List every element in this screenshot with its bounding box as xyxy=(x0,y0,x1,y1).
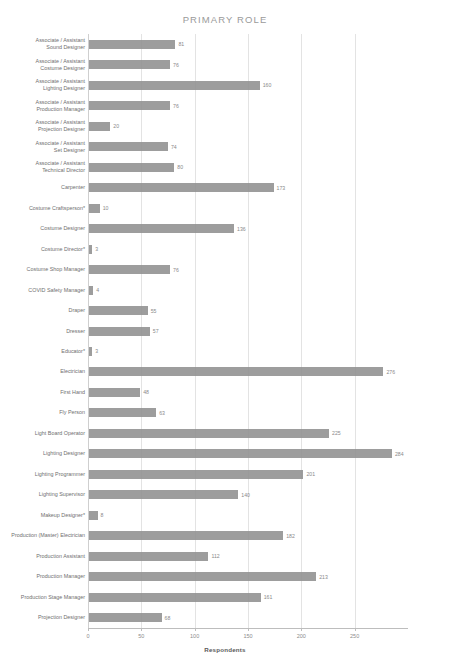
bar-value-label: 140 xyxy=(241,492,250,498)
category-label: Carpenter xyxy=(0,184,85,191)
x-tick-100 xyxy=(195,628,196,631)
bar-value-label: 74 xyxy=(171,144,177,150)
bar[interactable] xyxy=(89,101,170,110)
bar-value-label: 112 xyxy=(211,553,219,559)
bar[interactable] xyxy=(89,367,383,376)
x-axis-label: Respondents xyxy=(0,646,450,653)
category-label: Draper xyxy=(0,307,85,314)
bar-value-label: 213 xyxy=(319,574,328,580)
bar-value-label: 160 xyxy=(263,82,272,88)
bar[interactable] xyxy=(89,306,148,315)
bar[interactable] xyxy=(89,531,283,540)
category-label: Lighting Designer xyxy=(0,450,85,457)
x-tick-50 xyxy=(141,628,142,631)
bar-value-label: 182 xyxy=(286,533,295,539)
bar[interactable] xyxy=(89,81,260,90)
category-label: Projection Designer xyxy=(0,614,85,621)
bar-value-label: 284 xyxy=(395,451,404,457)
gridline-250 xyxy=(355,34,356,628)
bar-value-label: 76 xyxy=(173,267,179,273)
category-label: Associate / Assistant Projection Designe… xyxy=(0,119,85,133)
bar-value-label: 3 xyxy=(95,348,98,354)
bar[interactable] xyxy=(89,265,170,274)
category-label: Educator* xyxy=(0,348,85,355)
category-label: Costume Shop Manager xyxy=(0,266,85,273)
category-label: Production Assistant xyxy=(0,553,85,560)
bar-value-label: 3 xyxy=(95,246,98,252)
bar-value-label: 76 xyxy=(173,103,179,109)
category-label: Costume Craftsperson* xyxy=(0,205,85,212)
bar[interactable] xyxy=(89,286,93,295)
bar-value-label: 57 xyxy=(153,328,159,334)
bar[interactable] xyxy=(89,245,92,254)
bar[interactable] xyxy=(89,593,261,602)
bar[interactable] xyxy=(89,347,92,356)
category-label: Production Manager xyxy=(0,573,85,580)
category-label: Lighting Supervisor xyxy=(0,491,85,498)
category-label: Associate / Assistant Set Designer xyxy=(0,140,85,154)
bar[interactable] xyxy=(89,183,274,192)
bar-value-label: 201 xyxy=(306,471,315,477)
bar-chart-primary-role: PRIMARY ROLE Respondents 050100150200250… xyxy=(0,0,450,666)
category-label: Light Board Operator xyxy=(0,430,85,437)
bar-value-label: 161 xyxy=(264,594,273,600)
category-label: Makeup Designer* xyxy=(0,512,85,519)
bar[interactable] xyxy=(89,122,110,131)
x-tick-250 xyxy=(355,628,356,631)
bar[interactable] xyxy=(89,163,174,172)
bar[interactable] xyxy=(89,511,98,520)
category-label: Fly Person xyxy=(0,409,85,416)
bar[interactable] xyxy=(89,327,150,336)
bar[interactable] xyxy=(89,60,170,69)
x-tick-label-50: 50 xyxy=(138,633,144,639)
category-label: Associate / Assistant Lighting Designer xyxy=(0,78,85,92)
bar[interactable] xyxy=(89,552,208,561)
bar[interactable] xyxy=(89,40,175,49)
bar[interactable] xyxy=(89,388,140,397)
bar-value-label: 80 xyxy=(177,164,183,170)
category-label: Associate / Assistant Costume Designer xyxy=(0,58,85,72)
bar[interactable] xyxy=(89,490,238,499)
x-tick-label-100: 100 xyxy=(190,633,199,639)
bar[interactable] xyxy=(89,204,100,213)
gridline-200 xyxy=(301,34,302,628)
category-label: Costume Director* xyxy=(0,246,85,253)
bar-value-label: 276 xyxy=(386,369,395,375)
bar-value-label: 81 xyxy=(178,41,184,47)
category-label: Dresser xyxy=(0,328,85,335)
x-tick-150 xyxy=(248,628,249,631)
x-tick-label-150: 150 xyxy=(243,633,252,639)
bar-value-label: 63 xyxy=(159,410,165,416)
category-label: Production Stage Manager xyxy=(0,594,85,601)
bar-value-label: 8 xyxy=(101,512,104,518)
bar[interactable] xyxy=(89,408,156,417)
category-label: Production (Master) Electrician xyxy=(0,532,85,539)
bar[interactable] xyxy=(89,142,168,151)
bar-value-label: 225 xyxy=(332,430,341,436)
bar-value-label: 4 xyxy=(96,287,99,293)
bar-value-label: 173 xyxy=(277,185,286,191)
bar[interactable] xyxy=(89,470,303,479)
category-label: Associate / Assistant Technical Director xyxy=(0,160,85,174)
bar[interactable] xyxy=(89,429,329,438)
bar-value-label: 76 xyxy=(173,62,179,68)
bar-value-label: 55 xyxy=(151,308,157,314)
category-label: Lighting Programmer xyxy=(0,471,85,478)
x-tick-label-200: 200 xyxy=(297,633,306,639)
bar[interactable] xyxy=(89,224,234,233)
bar[interactable] xyxy=(89,449,392,458)
category-label: First Hand xyxy=(0,389,85,396)
category-label: COVID Safety Manager xyxy=(0,287,85,294)
category-label: Associate / Assistant Production Manager xyxy=(0,99,85,113)
bar-value-label: 68 xyxy=(165,615,171,621)
category-label: Associate / Assistant Sound Designer xyxy=(0,37,85,51)
bar[interactable] xyxy=(89,572,316,581)
bar-value-label: 20 xyxy=(113,123,119,129)
chart-title: PRIMARY ROLE xyxy=(0,14,450,25)
category-label: Electrician xyxy=(0,368,85,375)
category-label: Costume Designer xyxy=(0,225,85,232)
x-tick-200 xyxy=(301,628,302,631)
x-tick-label-0: 0 xyxy=(86,633,89,639)
bar[interactable] xyxy=(89,613,162,622)
x-tick-label-250: 250 xyxy=(350,633,359,639)
